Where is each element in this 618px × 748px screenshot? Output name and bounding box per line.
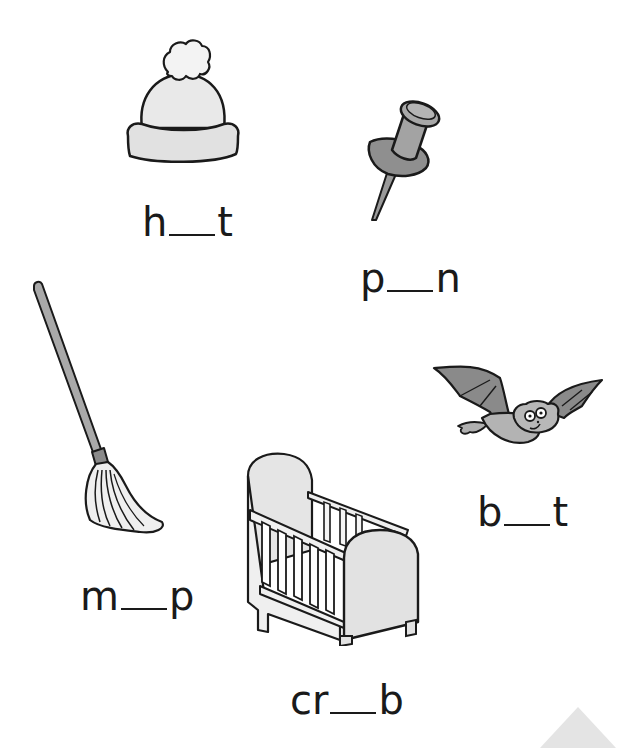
answer-blank[interactable] [330, 684, 376, 714]
answer-blank[interactable] [169, 206, 215, 236]
word-prefix: cr [290, 677, 328, 723]
word-prefix: p [360, 255, 385, 301]
word-suffix: t [217, 199, 233, 245]
crib-picture [240, 450, 422, 646]
word-pin: pn [360, 258, 461, 298]
word-bat: bt [477, 492, 568, 532]
corner-triangle-decoration [540, 707, 616, 748]
word-suffix: p [169, 573, 194, 619]
bat-picture [430, 360, 606, 450]
answer-blank[interactable] [504, 496, 550, 526]
word-suffix: t [552, 489, 568, 535]
hat-picture [124, 36, 242, 164]
mop-picture [30, 280, 170, 535]
word-prefix: b [477, 489, 502, 535]
word-crib: crb [290, 680, 404, 720]
answer-blank[interactable] [121, 580, 167, 610]
word-suffix: b [378, 677, 403, 723]
word-hat: ht [142, 202, 233, 242]
word-mop: mp [80, 576, 194, 616]
pushpin-picture [362, 96, 452, 226]
word-prefix: m [80, 573, 119, 619]
word-prefix: h [142, 199, 167, 245]
answer-blank[interactable] [387, 262, 433, 292]
word-suffix: n [435, 255, 460, 301]
